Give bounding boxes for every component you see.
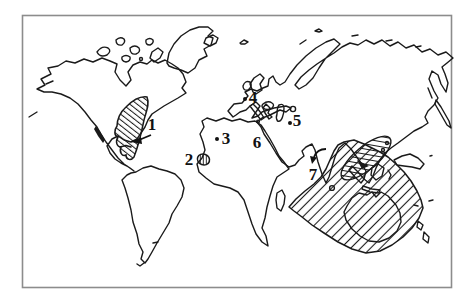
site-3-dot	[215, 137, 219, 141]
site-4-dot	[243, 97, 247, 101]
map-label-7: 7	[309, 165, 318, 184]
world-map-figure: 1 2 3 4 5 6 7	[0, 0, 475, 303]
map-label-3: 3	[222, 129, 231, 148]
map-label-4: 4	[249, 88, 258, 107]
world-map: 1 2 3 4 5 6 7	[0, 0, 475, 303]
map-label-6: 6	[253, 133, 262, 152]
map-label-5: 5	[293, 111, 302, 130]
map-label-2: 2	[185, 150, 194, 169]
map-label-1: 1	[148, 115, 157, 134]
site-5-dot	[288, 121, 292, 125]
